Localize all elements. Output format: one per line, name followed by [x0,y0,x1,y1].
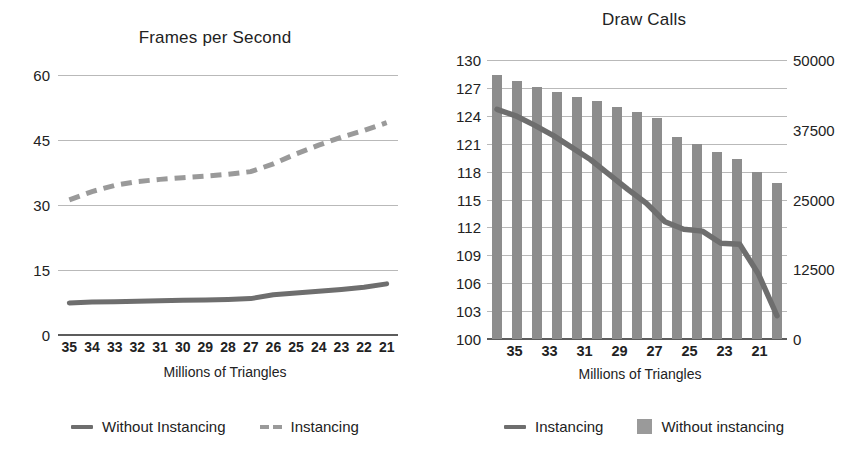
left-chart-legend-item[interactable]: Instancing [260,418,359,435]
left-chart-x-tick-label: 30 [171,339,194,355]
right-chart-left-y-tick-label: 130 [456,52,481,69]
left-chart-y-tick-label: 60 [33,67,50,84]
right-chart-left-y-tick-label: 103 [456,303,481,320]
left-chart-x-tick-label: 21 [375,339,398,355]
right-chart-left-y-tick-label: 100 [456,331,481,348]
left-chart-x-tick-label: 23 [330,339,353,355]
right-chart-x-tick-label: 35 [497,343,532,359]
right-chart-left-y-tick-label: 115 [457,191,481,208]
left-chart-x-tick-label: 28 [217,339,240,355]
frames-per-second-chart: Frames per Second 604530150 353433323130… [0,0,430,467]
left-chart-x-tick-label: 22 [353,339,376,355]
left-chart-legend-label: Without Instancing [102,418,225,435]
right-chart-x-axis: 3533312927252321 [487,343,787,359]
right-chart-left-y-tick-label: 127 [456,79,481,96]
line-dashed-icon [260,425,282,429]
right-chart-left-y-tick-label: 124 [456,107,481,124]
right-chart-right-y-tick-label: 37500 [793,121,835,138]
left-chart-x-tick-label: 26 [262,339,285,355]
right-chart-left-y-axis: 130127124121118115112109106103100 [437,60,481,339]
right-chart-right-y-tick-label: 0 [793,331,801,348]
right-chart-legend-label: Instancing [535,418,603,435]
left-chart-legend: Without InstancingInstancing [0,418,430,435]
left-chart-legend-item[interactable]: Without Instancing [71,418,225,435]
right-chart-legend-item[interactable]: Without instancing [637,418,784,435]
right-chart-plot-area [487,60,787,339]
page-title-right: Draw Calls [430,10,858,30]
left-chart-series-layer [58,75,398,335]
right-chart-x-tick-label: 27 [637,343,672,359]
left-chart-y-axis: 604530150 [8,75,50,335]
left-chart-x-axis: 353433323130292827262524232221 [58,339,398,355]
right-chart-x-tick-label: 21 [742,343,777,359]
right-chart-x-tick-label: 23 [707,343,742,359]
left-chart-legend-label: Instancing [291,418,359,435]
right-chart-legend-item[interactable]: Instancing [504,418,603,435]
right-chart-right-y-tick-label: 25000 [793,191,835,208]
left-chart-x-tick-label: 29 [194,339,217,355]
left-chart-x-tick-label: 34 [81,339,104,355]
right-chart-left-y-tick-label: 109 [456,247,481,264]
right-chart-x-tick-label: 25 [672,343,707,359]
page-title-left: Frames per Second [0,28,430,48]
left-chart-y-tick-label: 30 [33,197,50,214]
left-chart-x-tick-label: 32 [126,339,149,355]
right-chart-legend: InstancingWithout instancing [430,418,858,435]
left-chart-x-tick-label: 25 [285,339,308,355]
square-icon [637,419,652,434]
right-chart-legend-label: Without instancing [661,418,784,435]
figure-container: Frames per Second 604530150 353433323130… [0,0,858,467]
right-chart-x-tick-label: 29 [602,343,637,359]
right-chart-right-y-axis: 500003750025000125000 [793,60,855,339]
left-chart-y-tick-label: 0 [42,327,50,344]
right-chart-right-y-tick-label: 50000 [793,52,835,69]
right-chart-left-y-tick-label: 118 [457,163,481,180]
right-chart-left-y-tick-label: 121 [456,135,481,152]
right-chart-left-y-tick-label: 106 [456,275,481,292]
left-chart-x-tick-label: 33 [103,339,126,355]
line-solid-icon [71,425,93,429]
left-chart-x-tick-label: 35 [58,339,81,355]
right-chart-right-y-tick-label: 12500 [793,261,835,278]
left-chart-y-tick-label: 45 [33,132,50,149]
right-chart-x-axis-label: Millions of Triangles [470,366,810,382]
line-solid-icon [504,425,526,429]
left-chart-x-axis-label: Millions of Triangles [30,364,420,380]
left-chart-y-tick-label: 15 [33,262,50,279]
left-chart-x-tick-label: 24 [307,339,330,355]
right-chart-left-y-tick-label: 112 [457,219,481,236]
left-chart-x-tick-label: 31 [149,339,172,355]
left-chart-x-tick-label: 27 [239,339,262,355]
right-chart-series-layer [487,60,787,339]
right-chart-x-tick-label: 33 [532,343,567,359]
left-chart-plot-area [58,75,398,335]
right-chart-x-tick-label: 31 [567,343,602,359]
